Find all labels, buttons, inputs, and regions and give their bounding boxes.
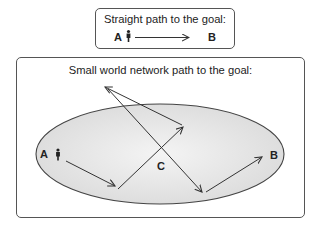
network-end-label: B — [270, 149, 278, 161]
diagram-canvas: A B A C B — [0, 0, 318, 225]
straight-start-label: A — [114, 31, 122, 43]
network-start-label: A — [40, 148, 48, 160]
network-hub-label: C — [157, 160, 165, 172]
network-region-ellipse — [36, 104, 284, 204]
straight-end-label: B — [208, 31, 216, 43]
person-icon — [127, 30, 131, 42]
